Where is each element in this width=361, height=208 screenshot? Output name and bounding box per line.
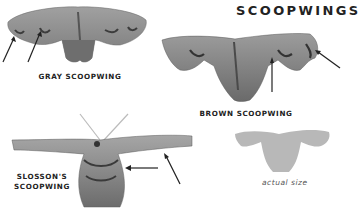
brown-scoopwing-label: BROWN SCOOPWING <box>186 109 306 119</box>
gray-scoopwing-arrow-2 <box>0 0 60 70</box>
slossons-scoopwing-arrow-2 <box>160 150 190 190</box>
actual-size-caption: actual size <box>262 178 308 187</box>
page-title: SCOOPWINGS <box>236 3 361 18</box>
slossons-label-line-2: SCOOPWING <box>4 182 80 192</box>
brown-scoopwing-arrow-2 <box>310 44 346 74</box>
slossons-scoopwing-label: SLOSSON'S SCOOPWING <box>4 172 80 192</box>
actual-size-silhouette <box>233 126 333 176</box>
slossons-scoopwing-arrow-1 <box>120 160 160 180</box>
brown-scoopwing-image <box>160 30 320 105</box>
slossons-label-line-1: SLOSSON'S <box>4 172 80 182</box>
gray-scoopwing-label: GRAY SCOOPWING <box>20 72 140 82</box>
brown-scoopwing-arrow-1 <box>260 50 290 100</box>
